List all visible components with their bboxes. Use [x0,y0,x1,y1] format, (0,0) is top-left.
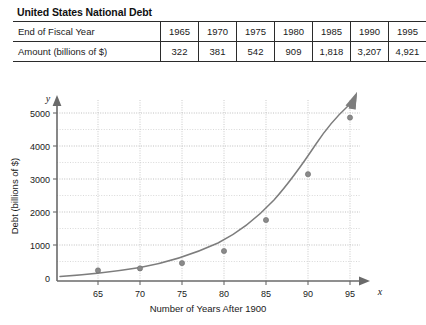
data-point-65 [95,268,100,273]
x-axis-title: Number of Years After 1900 [150,303,267,314]
y-tick-label-0: 0 [45,274,50,284]
x-tick-label-95: 95 [345,289,355,299]
data-point-95 [347,115,352,120]
data-point-80 [221,248,226,253]
y-tick-label-4000: 4000 [30,142,50,152]
minor-horizontal-gridlines [57,130,360,262]
cell-amount-1990: 3,207 [351,42,389,62]
table-title: United States National Debt [13,6,365,21]
national-debt-table: End of Fiscal Year 1965 1970 1975 1980 1… [13,21,426,62]
cell-year-1995: 1995 [389,22,426,42]
y-axis-title: Debt (billions of $) [9,158,20,235]
major-horizontal-gridlines [57,113,360,245]
cell-year-1965: 1965 [161,22,199,42]
x-tick-label-80: 80 [219,289,229,299]
table-row: End of Fiscal Year 1965 1970 1975 1980 1… [13,22,426,42]
x-tick-label-65: 65 [93,289,103,299]
x-tick-label-75: 75 [177,289,187,299]
cell-amount-1970: 381 [199,42,237,62]
data-point-90 [305,172,310,177]
y-axis [53,95,62,281]
cell-year-1985: 1985 [313,22,351,42]
data-point-85 [263,217,268,222]
debt-scatter-chart: 5000 4000 3000 2000 1000 0 65 70 75 80 8… [0,86,393,325]
x-tick-label-70: 70 [135,289,145,299]
x-axis-symbol: x [377,286,383,297]
cell-year-1990: 1990 [351,22,389,42]
table-row: Amount (billions of $) 322 381 542 909 1… [13,42,426,62]
x-tick-label-85: 85 [261,289,271,299]
y-tick-labels: 5000 4000 3000 2000 1000 0 [30,109,50,284]
national-debt-table-block: United States National Debt End of Fisca… [13,6,365,62]
x-tick-label-90: 90 [303,289,313,299]
row-header-amount: Amount (billions of $) [13,42,161,62]
y-tick-label-3000: 3000 [30,175,50,185]
y-axis-symbol: y [45,93,51,104]
cell-amount-1975: 542 [237,42,275,62]
cell-year-1975: 1975 [237,22,275,42]
y-tick-label-5000: 5000 [30,109,50,119]
y-tick-label-2000: 2000 [30,208,50,218]
cell-year-1980: 1980 [275,22,313,42]
data-point-75 [179,261,184,266]
chart-canvas: 5000 4000 3000 2000 1000 0 65 70 75 80 8… [0,86,393,325]
x-tick-labels: 65 70 75 80 85 90 95 [93,289,355,299]
cell-year-1970: 1970 [199,22,237,42]
cell-amount-1965: 322 [161,42,199,62]
best-fit-curve [60,92,357,277]
cell-amount-1995: 4,921 [389,42,426,62]
row-header-year: End of Fiscal Year [13,22,161,42]
cell-amount-1980: 909 [275,42,313,62]
y-tick-label-1000: 1000 [30,241,50,251]
data-point-70 [137,266,142,271]
x-axis [57,277,370,286]
cell-amount-1985: 1,818 [313,42,351,62]
